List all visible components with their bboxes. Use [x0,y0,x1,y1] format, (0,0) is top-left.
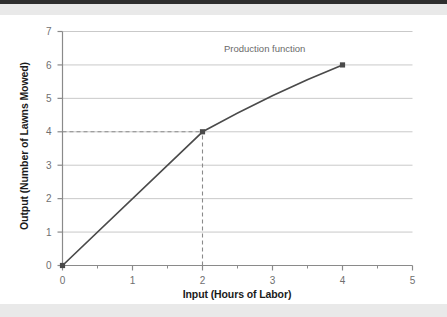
y-tick-label-0: 0 [46,260,52,271]
x-axis-title: Input (Hours of Labor) [62,288,412,300]
y-tick-label-5: 5 [46,93,52,104]
x-tick-label-4: 4 [340,275,346,286]
y-tick-label-1: 1 [46,227,52,238]
data-point-marker-4-6 [340,62,345,67]
y-axis [58,32,63,266]
x-tick-labels: 012345 [60,275,416,286]
y-tick-label-4: 4 [46,126,52,137]
y-tick-label-7: 7 [46,26,52,37]
data-point-marker-2-4 [200,129,205,134]
data-point-marker-0-0 [60,263,65,268]
y-tick-label-6: 6 [46,60,52,71]
x-axis [63,266,413,271]
series-annotation-label: Production function [224,43,305,54]
production-function-figure: 012345 01234567 Output (Number of Lawns … [0,0,447,317]
x-tick-label-1: 1 [130,275,136,286]
y-tick-labels: 01234567 [46,26,52,271]
y-tick-label-2: 2 [46,193,52,204]
y-axis-title: Output (Number of Lawns Mowed) [18,36,30,256]
x-tick-label-5: 5 [410,275,416,286]
x-tick-label-0: 0 [60,275,66,286]
x-tick-label-3: 3 [270,275,276,286]
y-tick-label-3: 3 [46,160,52,171]
x-tick-label-2: 2 [200,275,206,286]
